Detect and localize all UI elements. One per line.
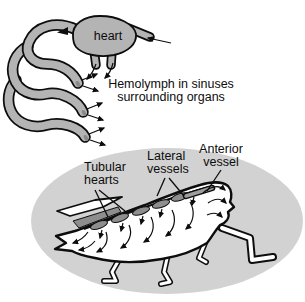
anterior-vessel-label: Anterior vessel [197,143,245,169]
heart-label: heart [92,30,124,43]
figure-open-circulatory-system: heart Hemolymph in sinuses surrounding o… [0,0,305,302]
tubular-hearts-label: Tubular hearts [84,161,126,187]
hemolymph-caption: Hemolymph in sinuses surrounding organs [104,78,238,104]
lateral-vessels-label: Lateral vessels [147,150,189,176]
